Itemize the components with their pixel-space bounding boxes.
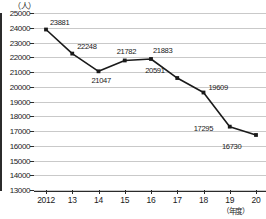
data-point-marker	[175, 76, 179, 80]
data-point-label: 17295	[194, 124, 213, 133]
data-point-marker	[97, 69, 101, 73]
data-point-marker	[70, 52, 74, 56]
data-point-marker	[149, 57, 153, 61]
data-point-marker	[123, 59, 127, 63]
data-point-label: 19609	[209, 83, 228, 92]
data-point-label: 23881	[50, 18, 69, 27]
x-axis-unit-label: （年度）	[222, 205, 249, 216]
line-chart: （人） 250002400023000220002100020000190001…	[0, 0, 266, 219]
data-point-label: 22248	[77, 42, 96, 51]
data-point-marker	[44, 28, 48, 32]
data-point-marker	[228, 125, 232, 129]
data-point-label: 20591	[145, 66, 164, 75]
data-point-label: 16730	[222, 142, 241, 151]
data-point-label: 21782	[117, 47, 136, 56]
data-point-marker	[254, 133, 258, 137]
data-point-marker	[202, 91, 206, 95]
data-point-label: 21047	[92, 76, 111, 85]
series-line-group	[0, 0, 266, 219]
data-point-label: 21883	[153, 46, 172, 55]
